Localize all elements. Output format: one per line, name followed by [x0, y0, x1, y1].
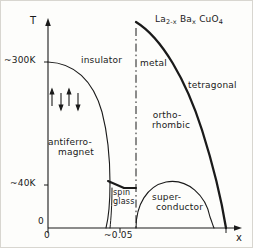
- antiferromagnet-line-2: magnet: [58, 147, 94, 157]
- orthorhombic-line-2: rhombic: [152, 120, 190, 130]
- y-axis-label: T: [30, 15, 36, 26]
- region-label-orthorhombic: ortho-rhombic: [144, 110, 190, 130]
- antiferromagnet-lower-edge: [106, 183, 110, 228]
- x-axis-label: x: [236, 232, 242, 243]
- x-tick-label-005: ~0.05: [104, 230, 133, 240]
- region-label-tetragonal: tetragonal: [188, 80, 237, 90]
- x-tick-label-0: 0: [44, 230, 50, 240]
- superconductor-line-1: super-: [152, 192, 203, 202]
- neel-boundary-curve: [48, 62, 110, 183]
- y-tick-label-0: 0: [38, 216, 44, 226]
- y-axis: [45, 18, 51, 228]
- y-tick-label-300k: ~300K: [4, 55, 36, 65]
- title-la: La: [155, 14, 166, 24]
- y-tick-label-40k: ~40K: [10, 178, 36, 188]
- spin-arrows-annotation: [50, 89, 80, 110]
- spin-glass-cap-boundary: [108, 181, 136, 188]
- region-label-antiferromagnet: antiferro-magnet: [48, 137, 94, 157]
- superconductor-line-2: conductor: [156, 202, 203, 212]
- spin-glass-line-2: glass: [113, 198, 135, 207]
- phase-diagram-plot: [0, 0, 253, 248]
- y-tick-marks: [44, 62, 48, 185]
- title-la-sub: 2-x: [166, 18, 177, 26]
- phase-diagram-figure: La2-x Bax CuO4 T x ~300K ~40K 0 0 ~0.05 …: [0, 0, 253, 248]
- orthorhombic-line-1: ortho-: [144, 110, 190, 120]
- region-label-metal: metal: [140, 58, 167, 68]
- antiferromagnet-line-1: antiferro-: [48, 137, 94, 147]
- title-o: O: [212, 14, 219, 24]
- region-label-insulator: insulator: [81, 55, 122, 65]
- title-cu: Cu: [199, 14, 211, 24]
- title-o-sub: 4: [219, 18, 223, 26]
- region-label-superconductor: super-conductor: [152, 192, 203, 212]
- x-tick-marks: [48, 228, 226, 233]
- chart-title: La2-x Bax CuO4: [155, 14, 223, 26]
- region-label-spin-glass: spinglass: [113, 189, 135, 207]
- title-ba: Ba: [180, 14, 192, 24]
